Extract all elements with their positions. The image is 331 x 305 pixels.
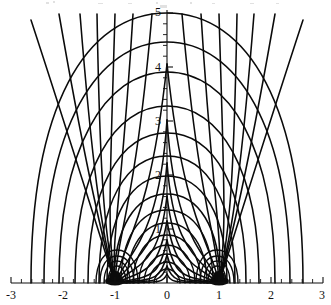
x-tick-label--3: -3 (6, 288, 16, 302)
y-tick-label-2: 2 (155, 168, 161, 182)
bipolar-coordinate-plot: -3 -2 -1 0 1 2 3 (0, 0, 331, 305)
y-tick-label-5: 5 (155, 5, 161, 19)
x-tick-label-2: 2 (268, 288, 274, 302)
x-tick-label--1: -1 (110, 288, 120, 302)
x-tick-label--2: -2 (58, 288, 68, 302)
x-tick-label-0: 0 (164, 288, 170, 302)
y-tick-label-1: 1 (155, 222, 161, 236)
y-tick-label-4: 4 (155, 60, 161, 74)
y-tick-label-3: 3 (155, 114, 161, 128)
x-tick-label-1: 1 (216, 288, 222, 302)
x-tick-label-3: 3 (319, 288, 325, 302)
plot-canvas: -3 -2 -1 0 1 2 3 (0, 0, 331, 305)
